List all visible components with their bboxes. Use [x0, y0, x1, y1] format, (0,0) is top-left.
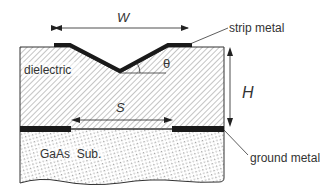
height-arrow-bottom-head [227, 118, 233, 127]
width-label: W [117, 10, 131, 25]
ground-metal-left [20, 126, 71, 132]
height-arrow-top-head [227, 47, 233, 56]
strip-metal-leader [190, 28, 228, 44]
dielectric-layer [20, 47, 224, 129]
v-groove-microstrip-diagram: dielectric W H S θ GaAs Sub. strip metal… [0, 0, 336, 194]
dielectric-label: dielectric [24, 63, 71, 77]
width-arrow-left-head [54, 25, 62, 31]
ground-metal-label: ground metal [250, 151, 320, 165]
ground-metal-right [172, 126, 224, 132]
substrate-label: GaAs Sub. [40, 147, 101, 161]
height-label: H [242, 84, 254, 101]
strip-metal-label: strip metal [229, 21, 284, 35]
angle-label: θ [163, 56, 170, 71]
spacing-label: S [116, 100, 125, 115]
ground-metal-leader [224, 130, 248, 155]
